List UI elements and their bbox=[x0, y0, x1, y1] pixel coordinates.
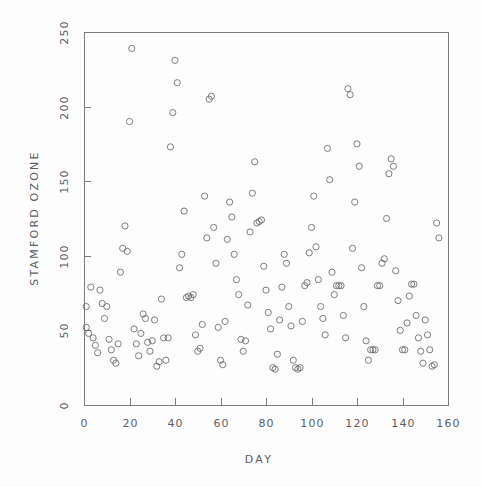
x-tick-label: 20 bbox=[122, 417, 138, 430]
data-point bbox=[133, 341, 139, 347]
data-point bbox=[281, 251, 287, 257]
data-point bbox=[245, 302, 251, 308]
x-tick-label: 140 bbox=[391, 417, 415, 430]
data-point bbox=[122, 223, 128, 229]
data-point bbox=[126, 118, 132, 124]
data-point bbox=[331, 291, 337, 297]
data-point bbox=[390, 163, 396, 169]
data-point bbox=[249, 190, 255, 196]
data-point bbox=[95, 350, 101, 356]
data-point bbox=[288, 323, 294, 329]
x-tick-label: 160 bbox=[436, 417, 460, 430]
data-point bbox=[306, 250, 312, 256]
data-point bbox=[415, 335, 421, 341]
data-point bbox=[124, 248, 130, 254]
x-tick-label: 40 bbox=[167, 417, 183, 430]
data-point bbox=[117, 269, 123, 275]
data-point bbox=[356, 163, 362, 169]
data-point bbox=[104, 303, 110, 309]
x-axis-title: DAY bbox=[245, 453, 273, 466]
data-point bbox=[349, 245, 355, 251]
data-point bbox=[163, 357, 169, 363]
data-point bbox=[261, 263, 267, 269]
data-point bbox=[363, 338, 369, 344]
y-tick-label: 50 bbox=[58, 322, 71, 338]
y-tick-label: 150 bbox=[58, 169, 71, 193]
data-point bbox=[320, 315, 326, 321]
data-point bbox=[393, 268, 399, 274]
data-point bbox=[240, 348, 246, 354]
data-point bbox=[315, 277, 321, 283]
y-tick-label: 250 bbox=[58, 20, 71, 44]
data-point bbox=[170, 109, 176, 115]
data-point bbox=[129, 45, 135, 51]
y-axis-tick-labels: 050100150200250 bbox=[58, 20, 71, 409]
data-point bbox=[158, 296, 164, 302]
data-point bbox=[101, 315, 107, 321]
data-point bbox=[279, 284, 285, 290]
data-point bbox=[345, 86, 351, 92]
data-point bbox=[383, 215, 389, 221]
data-point bbox=[329, 269, 335, 275]
data-point bbox=[229, 214, 235, 220]
data-point bbox=[115, 341, 121, 347]
data-point bbox=[388, 156, 394, 162]
data-point bbox=[413, 312, 419, 318]
data-point bbox=[283, 260, 289, 266]
data-point bbox=[322, 332, 328, 338]
data-point bbox=[131, 326, 137, 332]
x-tick-label: 100 bbox=[300, 417, 324, 430]
data-point bbox=[236, 291, 242, 297]
data-point bbox=[354, 141, 360, 147]
data-point bbox=[120, 245, 126, 251]
plot-canvas: 020406080100120140160 050100150200250 DA… bbox=[0, 0, 481, 487]
data-point bbox=[179, 251, 185, 257]
data-point bbox=[324, 145, 330, 151]
x-tick-label: 0 bbox=[80, 417, 88, 430]
data-point bbox=[106, 336, 112, 342]
data-point bbox=[313, 244, 319, 250]
data-point bbox=[365, 357, 371, 363]
y-tick-label: 100 bbox=[58, 244, 71, 268]
data-point bbox=[434, 220, 440, 226]
data-point bbox=[343, 335, 349, 341]
data-point bbox=[136, 353, 142, 359]
data-points bbox=[83, 45, 442, 372]
data-point bbox=[361, 303, 367, 309]
data-point bbox=[138, 330, 144, 336]
data-point bbox=[181, 208, 187, 214]
scatter-plot-figure: 020406080100120140160 050100150200250 DA… bbox=[0, 0, 481, 487]
data-point bbox=[404, 320, 410, 326]
data-point bbox=[277, 317, 283, 323]
x-axis-ticks bbox=[85, 398, 449, 405]
y-tick-label: 200 bbox=[58, 95, 71, 119]
data-point bbox=[199, 321, 205, 327]
data-point bbox=[201, 193, 207, 199]
data-point bbox=[406, 293, 412, 299]
data-point bbox=[252, 159, 258, 165]
data-point bbox=[311, 193, 317, 199]
data-point bbox=[247, 229, 253, 235]
data-point bbox=[108, 347, 114, 353]
data-point bbox=[308, 224, 314, 230]
data-point bbox=[286, 303, 292, 309]
data-point bbox=[231, 251, 237, 257]
data-point bbox=[420, 360, 426, 366]
data-point bbox=[222, 318, 228, 324]
data-point bbox=[213, 260, 219, 266]
data-point bbox=[88, 284, 94, 290]
data-point bbox=[422, 317, 428, 323]
data-point bbox=[395, 297, 401, 303]
data-point bbox=[233, 277, 239, 283]
data-point bbox=[436, 235, 442, 241]
data-point bbox=[265, 309, 271, 315]
data-point bbox=[192, 332, 198, 338]
data-point bbox=[147, 348, 153, 354]
data-point bbox=[215, 324, 221, 330]
y-tick-label: 0 bbox=[58, 401, 71, 409]
x-tick-label: 120 bbox=[345, 417, 369, 430]
data-point bbox=[99, 300, 105, 306]
data-point bbox=[340, 312, 346, 318]
data-point bbox=[397, 327, 403, 333]
x-tick-label: 80 bbox=[258, 417, 274, 430]
